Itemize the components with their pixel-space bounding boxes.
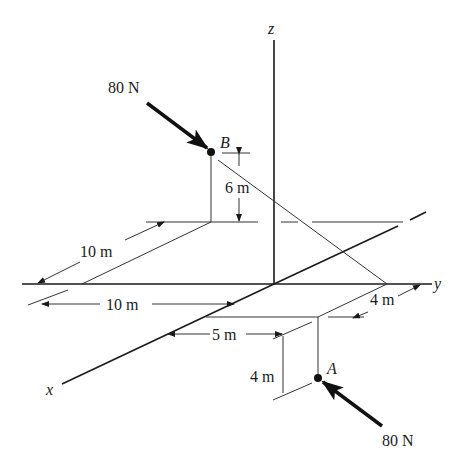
point-A-label: A	[326, 360, 337, 377]
force-label-B: 80 N	[108, 79, 140, 96]
x-axis-back-2	[410, 212, 426, 220]
dim-5m-tick	[273, 322, 312, 339]
dim-4m-y-label: 4 m	[370, 291, 395, 308]
dim-4m-depth-label: 4 m	[250, 368, 275, 385]
dim-5m-label: 5 m	[212, 326, 237, 343]
point-B	[207, 148, 215, 156]
force-diagram: z y x 6 m 10 m 10 m 4 m 5 m 4 m 80 N	[0, 0, 458, 475]
point-B-label: B	[220, 134, 230, 151]
x-axis-label: x	[45, 381, 53, 398]
dim-10m-upper-label: 10 m	[80, 243, 113, 260]
dim-4m-y-arrow-b	[398, 285, 420, 296]
dim-10m-lower-tick	[28, 290, 68, 305]
z-axis-label: z	[267, 20, 275, 37]
dim-10m-upper-b	[38, 262, 80, 283]
point-A	[314, 374, 322, 382]
force-arrow-A	[323, 382, 382, 426]
dim-10m-lower-label: 10 m	[106, 296, 139, 313]
force-arrow-B	[147, 103, 207, 148]
y-axis-label: y	[432, 275, 442, 293]
dim-6m-label: 6 m	[225, 179, 250, 196]
force-label-A: 80 N	[382, 432, 414, 449]
dim-4m-depth-bottom-tick	[273, 383, 312, 400]
dim-10m-upper-a	[125, 222, 164, 240]
x-axis-back	[274, 226, 398, 284]
